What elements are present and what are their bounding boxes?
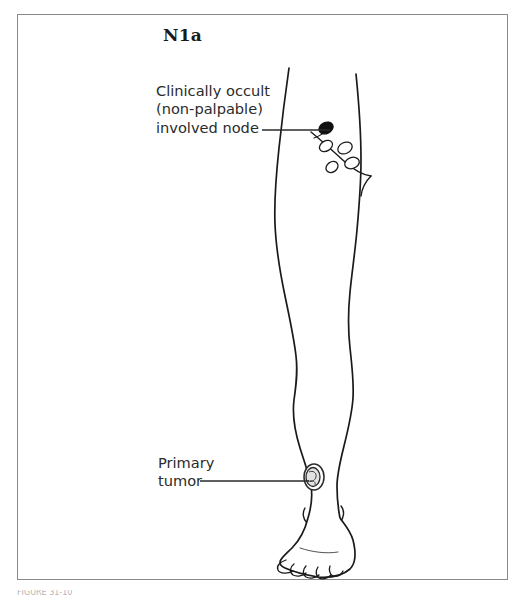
annotation-node-line-2: (non-palpable) <box>156 100 270 118</box>
figure-caption-strip: FIGURE 31-10 <box>17 590 317 599</box>
figure-caption: FIGURE 31-10 <box>17 590 317 597</box>
annotation-node-line-3: involved node <box>156 119 270 137</box>
primary-tumor-lesion <box>304 464 324 490</box>
uninvolved-node-4 <box>324 159 340 175</box>
annotation-node-line-1: Clinically occult <box>156 82 270 100</box>
foot-with-toes <box>277 518 354 579</box>
annotation-tumor-line-1: Primary <box>158 454 214 472</box>
annotation-tumor-line-2: tumor <box>158 472 214 490</box>
uninvolved-node-3 <box>343 155 361 170</box>
inguinal-lymphatic-chain <box>311 130 371 196</box>
figure-root: N1a <box>0 0 525 600</box>
involved-node-filled <box>317 120 335 137</box>
annotation-primary-tumor: Primary tumor <box>158 454 214 491</box>
uninvolved-node-2 <box>336 140 354 156</box>
annotation-involved-node: Clinically occult (non-palpable) involve… <box>156 82 270 137</box>
